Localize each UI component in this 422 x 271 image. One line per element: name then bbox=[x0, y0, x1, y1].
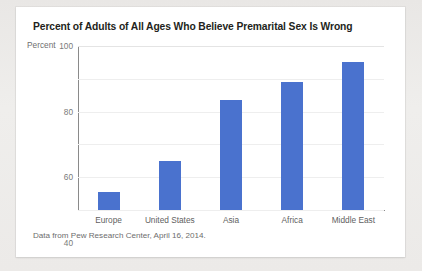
bar[interactable] bbox=[342, 62, 364, 210]
bar[interactable] bbox=[281, 82, 303, 210]
page-title: Percent of Adults of All Ages Who Believ… bbox=[33, 21, 352, 32]
plot-area: 100806040200 EuropeUnited StatesAsiaAfri… bbox=[78, 46, 384, 210]
x-axis-tick-label: United States bbox=[145, 215, 195, 225]
x-axis-tick-label: Asia bbox=[223, 215, 239, 225]
gridline: 0 bbox=[78, 210, 384, 211]
y-axis-unit-label: Percent bbox=[27, 40, 56, 50]
x-axis-tick-label: Middle East bbox=[332, 215, 375, 225]
bar-group: Europe bbox=[78, 46, 139, 210]
chart-card: Percent of Adults of All Ages Who Believ… bbox=[16, 7, 405, 257]
source-note: Data from Pew Research Center, April 16,… bbox=[33, 231, 206, 240]
y-axis-tick-label: 60 bbox=[64, 172, 73, 182]
bar[interactable] bbox=[220, 100, 242, 210]
bar-series: EuropeUnited StatesAsiaAfricaMiddle East bbox=[78, 46, 384, 210]
screenshot-root: Percent of Adults of All Ages Who Believ… bbox=[0, 0, 422, 271]
bar-group: Asia bbox=[200, 46, 261, 210]
bar-group: Africa bbox=[262, 46, 323, 210]
bar[interactable] bbox=[98, 192, 120, 210]
y-axis-tick-label: 100 bbox=[59, 41, 73, 51]
x-axis-tick-label: Africa bbox=[282, 215, 303, 225]
x-axis-tick-label: Europe bbox=[95, 215, 122, 225]
bar-group: Middle East bbox=[323, 46, 384, 210]
bar[interactable] bbox=[159, 161, 181, 210]
bar-group: United States bbox=[139, 46, 200, 210]
y-axis-tick-label: 80 bbox=[64, 107, 73, 117]
